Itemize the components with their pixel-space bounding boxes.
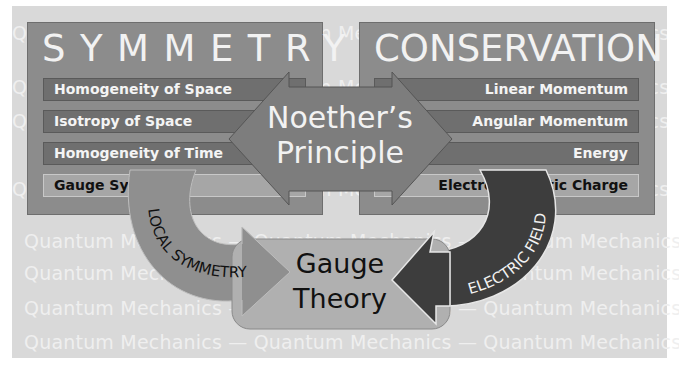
gauge-theory-line2: Theory (270, 281, 410, 316)
noether-diagram: Quantum Mechanics — Quantum Mechanics — … (0, 0, 680, 368)
noether-line2: Principle (240, 135, 440, 170)
gauge-theory-label: Gauge Theory (270, 246, 410, 316)
noether-label: Noether’s Principle (240, 100, 440, 170)
gauge-theory-line1: Gauge (270, 246, 410, 281)
noether-line1: Noether’s (240, 100, 440, 135)
